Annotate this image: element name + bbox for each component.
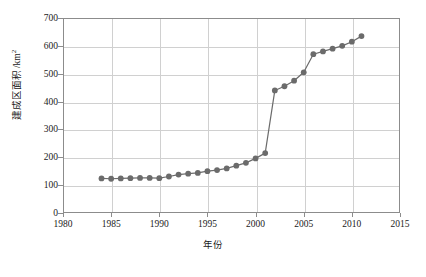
data-point-marker [233,163,239,169]
y-tick-label: 300 [18,124,58,134]
data-point-marker [301,69,307,75]
x-tick-label: 2010 [330,219,374,230]
data-point-marker [108,176,114,182]
data-point-marker [253,156,259,162]
chart-container: 建成区面积 /km2 0100200300400500600700 198019… [0,0,426,277]
x-tick-label: 1985 [89,219,133,230]
data-series-line [63,18,400,213]
data-point-marker [330,46,336,52]
x-tick-mark [159,213,160,217]
y-tick-label: 600 [18,41,58,51]
data-point-marker [118,176,124,182]
x-tick-mark [63,213,64,217]
x-tick-label: 1990 [137,219,181,230]
x-tick-label: 1980 [41,219,85,230]
data-point-marker [282,83,288,89]
data-point-marker [291,78,297,84]
data-point-marker [176,172,182,178]
data-point-marker [359,33,365,39]
x-tick-mark [400,213,401,217]
data-point-marker [147,175,153,181]
x-tick-label: 2015 [378,219,422,230]
y-axis-title-superscript: 2 [10,50,18,54]
x-tick-mark [352,213,353,217]
data-point-marker [185,171,191,177]
data-point-marker [339,43,345,49]
series-polyline [102,36,362,179]
y-tick-label: 100 [18,180,58,190]
y-tick-label: 500 [18,69,58,79]
x-axis-title: 年份 [0,240,426,251]
x-tick-mark [256,213,257,217]
data-point-marker [214,167,220,173]
data-point-marker [205,168,211,174]
x-tick-mark [111,213,112,217]
data-point-marker [272,88,278,94]
x-tick-mark [304,213,305,217]
y-tick-label: 400 [18,97,58,107]
data-point-marker [195,170,201,176]
data-point-marker [166,174,172,180]
data-point-marker [137,175,143,181]
data-point-marker [243,160,249,166]
data-point-marker [262,150,268,156]
y-axis-title-text: 建成区面积 /km [12,53,22,120]
x-tick-label: 1995 [185,219,229,230]
y-tick-label: 700 [18,13,58,23]
x-tick-label: 2005 [282,219,326,230]
data-point-marker [310,51,316,57]
y-tick-label: 0 [18,208,58,218]
data-point-marker [349,39,355,45]
data-point-marker [156,175,162,181]
y-tick-label: 200 [18,152,58,162]
data-point-marker [128,175,134,181]
x-tick-mark [207,213,208,217]
data-point-marker [224,166,230,172]
data-point-marker [99,176,105,182]
x-tick-label: 2000 [234,219,278,230]
data-point-marker [320,49,326,55]
